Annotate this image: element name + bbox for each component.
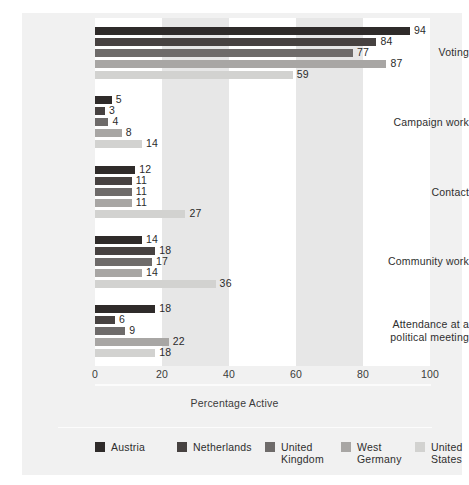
x-tick-label: 100 — [410, 368, 450, 380]
bar-value-label: 11 — [136, 187, 147, 195]
bar — [95, 49, 353, 57]
legend-swatch-icon — [415, 442, 425, 452]
bar-value-label: 4 — [112, 117, 118, 125]
bar — [95, 107, 105, 115]
bar — [95, 188, 132, 196]
x-tick-label: 20 — [142, 368, 182, 380]
category-label: Campaign work — [377, 116, 469, 129]
bar — [95, 129, 122, 137]
x-tick-label: 40 — [209, 368, 249, 380]
x-tick-label: 60 — [276, 368, 316, 380]
bar — [95, 258, 152, 266]
legend-swatch-icon — [341, 442, 351, 452]
bar — [95, 60, 386, 68]
bar-value-label: 6 — [119, 315, 125, 323]
bar — [95, 269, 142, 277]
x-tick-label: 80 — [343, 368, 383, 380]
bar-value-label: 12 — [139, 165, 151, 173]
bar-value-label: 17 — [156, 257, 168, 265]
legend-swatch-icon — [95, 442, 105, 452]
bar — [95, 140, 142, 148]
bar — [95, 327, 125, 335]
legend-divider — [58, 427, 432, 428]
category-label: Voting — [377, 46, 469, 59]
bar — [95, 349, 155, 357]
legend-item[interactable]: Austria — [95, 441, 145, 453]
bar — [95, 71, 293, 79]
bar-value-label: 9 — [129, 326, 135, 334]
bar — [95, 199, 132, 207]
bar-value-label: 22 — [173, 337, 185, 345]
bar-value-label: 84 — [380, 37, 392, 45]
legend-label: UnitedStates — [431, 441, 463, 465]
bar-value-label: 14 — [146, 139, 158, 147]
bar-value-label: 5 — [116, 95, 122, 103]
category-label: Attendance at apolitical meeting — [377, 318, 469, 344]
bar — [95, 305, 155, 313]
bar-value-label: 8 — [126, 128, 132, 136]
bar-value-label: 27 — [189, 209, 201, 217]
bar — [95, 338, 169, 346]
bar — [95, 38, 376, 46]
bar-value-label: 11 — [136, 176, 147, 184]
bar — [95, 247, 155, 255]
bar — [95, 166, 135, 174]
x-axis-title: Percentage Active — [0, 397, 469, 409]
bar-value-label: 87 — [390, 59, 402, 67]
legend-item[interactable]: WestGermany — [341, 441, 402, 465]
legend-label: Austria — [111, 441, 145, 453]
bar — [95, 96, 112, 104]
bar — [95, 236, 142, 244]
bar-value-label: 36 — [220, 279, 232, 287]
chart-figure: 9484778759534814121111112714181714361869… — [0, 0, 469, 485]
category-label: Contact — [377, 186, 469, 199]
bar — [95, 118, 108, 126]
bar — [95, 280, 216, 288]
bar-value-label: 11 — [136, 198, 147, 206]
x-tick-label: 0 — [75, 368, 115, 380]
bar-value-label: 3 — [109, 106, 115, 114]
legend-item[interactable]: UnitedKingdom — [265, 441, 324, 465]
legend-item[interactable]: UnitedStates — [415, 441, 463, 465]
legend-label: WestGermany — [357, 441, 402, 465]
bar-value-label: 18 — [159, 304, 171, 312]
bar-value-label: 14 — [146, 235, 158, 243]
chart-legend: AustriaNetherlandsUnitedKingdomWestGerma… — [95, 441, 440, 475]
legend-swatch-icon — [177, 442, 187, 452]
bar-value-label: 18 — [159, 348, 171, 356]
bar — [95, 27, 410, 35]
legend-label: Netherlands — [193, 441, 252, 453]
bar-value-label: 18 — [159, 246, 171, 254]
bar-value-label: 94 — [414, 26, 426, 34]
bar — [95, 210, 185, 218]
bar-value-label: 59 — [297, 70, 309, 78]
category-label: Community work — [377, 255, 469, 268]
bar — [95, 316, 115, 324]
legend-item[interactable]: Netherlands — [177, 441, 252, 453]
x-axis-line — [95, 384, 431, 386]
bar-value-label: 77 — [357, 48, 369, 56]
legend-label: UnitedKingdom — [281, 441, 324, 465]
bar-value-label: 14 — [146, 268, 158, 276]
legend-swatch-icon — [265, 442, 275, 452]
bar — [95, 177, 132, 185]
